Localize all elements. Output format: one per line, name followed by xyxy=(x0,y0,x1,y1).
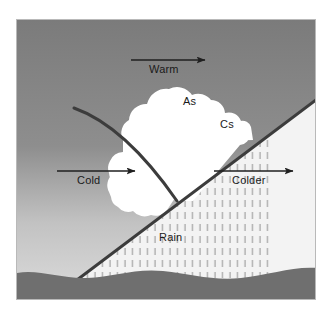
figure-frame: Warm Cold Colder As Cs Rain xyxy=(16,19,316,300)
altostratus-label: As xyxy=(183,96,196,107)
rain-label: Rain xyxy=(159,232,182,243)
cold-airflow-label: Cold xyxy=(77,175,100,186)
occluded-front-illustration xyxy=(17,20,315,299)
warm-airflow-label: Warm xyxy=(149,64,179,75)
cirrostratus-label: Cs xyxy=(220,119,234,130)
weather-diagram-scene: Warm Cold Colder As Cs Rain xyxy=(17,20,315,299)
figure-canvas: Warm Cold Colder As Cs Rain xyxy=(0,0,333,319)
colder-airflow-label: Colder xyxy=(232,175,266,186)
